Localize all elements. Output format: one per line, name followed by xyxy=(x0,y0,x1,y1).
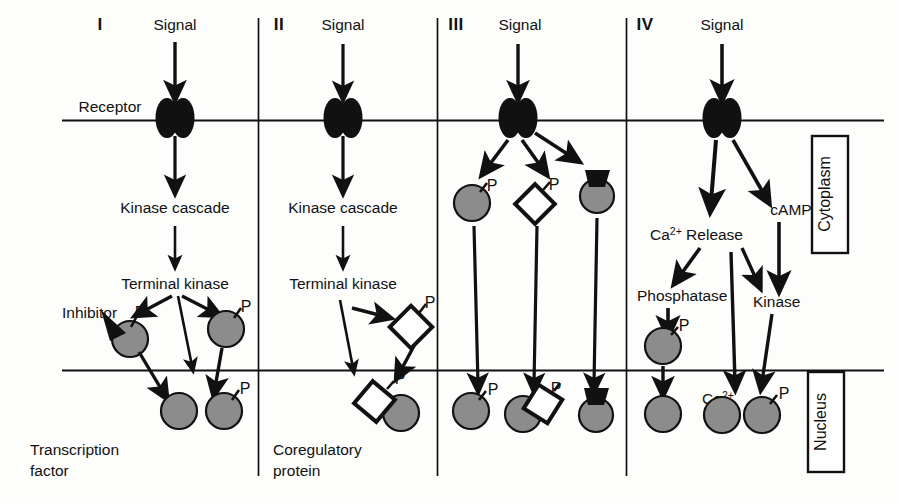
p-mark-3a: P xyxy=(487,177,498,194)
p-mark-3b: P xyxy=(549,176,560,193)
arrow-translocate-3b xyxy=(534,226,537,384)
arrow-receptor-to-factor-3a xyxy=(487,140,508,168)
p-mark-3c: P xyxy=(488,381,499,398)
outcome-label-2-line1: Coregulatory xyxy=(273,441,362,458)
kinase-label: Kinase xyxy=(753,293,800,310)
arrow-receptor-to-factor-3c xyxy=(535,133,572,157)
kinase-cascade-label-2: Kinase cascade xyxy=(288,199,397,216)
camp-label: cAMP xyxy=(770,201,811,218)
arrow-calcium-to-kinase-4 xyxy=(742,248,757,281)
kinase-cascade-label-1: Kinase cascade xyxy=(120,199,229,216)
p-mark-1b: P xyxy=(241,298,252,315)
nucleus-box: Nucleus xyxy=(808,372,844,472)
arrow-right-tf-into-nucleus-1 xyxy=(215,348,222,388)
cytoplasmic-factor-3a xyxy=(454,183,490,221)
panel-numeral-3: III xyxy=(448,15,464,34)
p-mark-2b: P xyxy=(395,370,406,387)
arrow-terminal-to-left-tf-1 xyxy=(142,296,172,312)
p-mark-1c: P xyxy=(240,380,251,397)
receptor-icon-4 xyxy=(703,98,742,138)
nuclear-transcription-factor-1a xyxy=(161,393,197,429)
arrow-coregulator-into-nucleus-2 xyxy=(400,344,415,372)
panel-numeral-2: II xyxy=(274,15,284,34)
phosphatase-label: Phosphatase xyxy=(637,287,728,304)
arrow-terminal-down-nucleus-1 xyxy=(178,296,192,366)
cytoplasmic-factor-4 xyxy=(645,327,681,364)
p-mark-4a: P xyxy=(679,317,690,334)
arrow-translocate-3c xyxy=(594,218,597,384)
pathway-figure: I Signal Receptor Kinase cascade Termina… xyxy=(0,0,898,503)
arrow-calcium-to-phosphatase-4 xyxy=(679,248,700,277)
signal-label-3: Signal xyxy=(498,16,541,33)
outcome-label-1-line2: factor xyxy=(30,462,69,479)
nuclear-factor-4a xyxy=(645,396,681,432)
p-mark-2a: P xyxy=(425,294,436,311)
outcome-label-2-line2: protein xyxy=(273,462,320,479)
phosphorylated-transcription-factor-1 xyxy=(208,308,244,347)
arrow-receptor-to-camp-4 xyxy=(733,140,765,196)
calcium-release-label: Ca2+ Release xyxy=(650,225,743,243)
cytoplasm-label: Cytoplasm xyxy=(816,156,833,232)
receptor-label: Receptor xyxy=(79,98,142,115)
arrow-translocate-3a xyxy=(474,226,478,384)
nuclear-coregulator-complex-2 xyxy=(354,381,419,431)
receptor-icon-2 xyxy=(324,98,363,138)
arrow-receptor-to-calcium-4 xyxy=(711,140,716,202)
arrow-left-tf-into-nucleus-1 xyxy=(139,352,163,392)
cytoplasmic-factor-3c xyxy=(580,170,614,213)
arrow-receptor-to-factor-3b xyxy=(522,140,542,168)
panel-numeral-4: IV xyxy=(636,15,653,34)
signal-label-2: Signal xyxy=(321,16,364,33)
nucleus-label: Nucleus xyxy=(812,393,829,451)
nuclear-factor-4c xyxy=(744,395,780,433)
signal-label-4: Signal xyxy=(700,16,743,33)
panel-numeral-1: I xyxy=(97,15,102,34)
nuclear-transcription-factor-1b xyxy=(206,390,242,429)
terminal-kinase-label-1: Terminal kinase xyxy=(121,275,229,292)
arrow-terminal-down-nucleus-2 xyxy=(340,300,353,368)
nuclear-factor-3c xyxy=(579,388,613,432)
p-mark-1a: P xyxy=(135,304,146,321)
p-mark-3d: P xyxy=(551,380,562,397)
pathway-svg: I Signal Receptor Kinase cascade Termina… xyxy=(0,0,898,503)
nuclear-factor-4b xyxy=(704,397,740,433)
outcome-label-1-line1: Transcription xyxy=(30,441,119,458)
arrow-calcium-into-nucleus-4 xyxy=(731,252,735,382)
arrow-terminal-to-right-tf-1 xyxy=(182,296,213,312)
p-mark-4b: P xyxy=(779,385,790,402)
nuclear-factor-3a xyxy=(453,391,489,429)
receptor-icon-3 xyxy=(499,98,538,138)
signal-label-1: Signal xyxy=(153,16,196,33)
cytoplasm-box: Cytoplasm xyxy=(812,136,848,253)
arrow-terminal-to-coregulator-2 xyxy=(352,308,383,316)
terminal-kinase-label-2: Terminal kinase xyxy=(289,275,397,292)
arrow-kinase-into-nucleus-4 xyxy=(762,314,772,382)
receptor-icon-1 xyxy=(156,98,195,138)
